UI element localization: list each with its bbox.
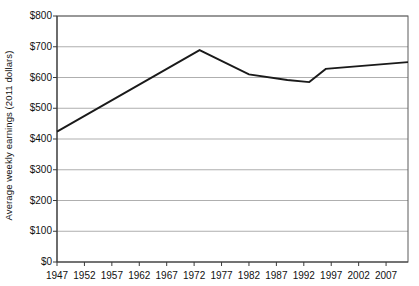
plot-area [0,0,419,286]
y-axis-tickmarks [53,16,57,262]
gridlines [57,16,408,231]
x-axis-tickmarks [57,262,386,266]
data-series-line [57,50,408,131]
line-chart: Average weekly earnings (2011 dollars) $… [0,0,419,286]
